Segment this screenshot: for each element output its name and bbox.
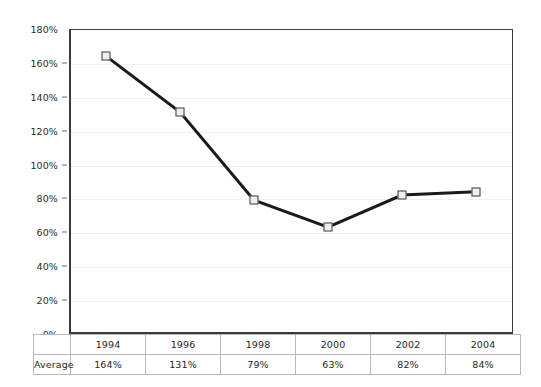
y-tick-label-20: 20% (37, 295, 58, 306)
table-header-1994: 1994 (71, 335, 146, 355)
table-cell-2002: 82% (371, 355, 446, 375)
y-tick-mark-40 (62, 266, 67, 267)
y-tick-label-80: 80% (37, 193, 58, 204)
y-tick-label-40: 40% (37, 261, 58, 272)
table-header-2000: 2000 (296, 335, 371, 355)
table-corner-cell (34, 335, 71, 355)
gridline-20 (71, 301, 512, 302)
y-tick-label-160: 160% (30, 57, 58, 68)
data-table: 1994 1996 1998 2000 2002 2004 Average 16… (33, 334, 521, 375)
table-cell-2004: 84% (446, 355, 521, 375)
gridline-40 (71, 267, 512, 268)
table-row-header: 1994 1996 1998 2000 2002 2004 (34, 335, 521, 355)
table-header-1996: 1996 (146, 335, 221, 355)
table-cell-1994: 164% (71, 355, 146, 375)
table-row-average: Average 164% 131% 79% 63% 82% 84% (34, 355, 521, 375)
y-tick-mark-100 (62, 164, 67, 165)
table-header-2004: 2004 (446, 335, 521, 355)
plot-area (69, 29, 513, 334)
chart-container: 180%160%140%120%100%80%60%40%20%0% 1994 … (0, 0, 541, 387)
table-cell-1996: 131% (146, 355, 221, 375)
y-tick-label-60: 60% (37, 227, 58, 238)
gridline-100 (71, 166, 512, 167)
table-header-2002: 2002 (371, 335, 446, 355)
gridline-120 (71, 132, 512, 133)
y-tick-label-180: 180% (30, 24, 58, 35)
y-tick-label-120: 120% (30, 125, 58, 136)
table-header-1998: 1998 (221, 335, 296, 355)
y-tick-mark-60 (62, 232, 67, 233)
gridline-60 (71, 233, 512, 234)
gridline-160 (71, 64, 512, 65)
y-tick-mark-20 (62, 300, 67, 301)
table-cell-2000: 63% (296, 355, 371, 375)
y-tick-label-140: 140% (30, 91, 58, 102)
gridline-140 (71, 98, 512, 99)
y-tick-mark-160 (62, 62, 67, 63)
gridline-80 (71, 199, 512, 200)
table-row-label-average: Average (34, 355, 71, 375)
y-axis: 180%160%140%120%100%80%60%40%20%0% (0, 0, 69, 387)
table-cell-1998: 79% (221, 355, 296, 375)
y-tick-label-100: 100% (30, 159, 58, 170)
y-tick-mark-80 (62, 198, 67, 199)
y-tick-mark-120 (62, 130, 67, 131)
y-tick-mark-140 (62, 96, 67, 97)
